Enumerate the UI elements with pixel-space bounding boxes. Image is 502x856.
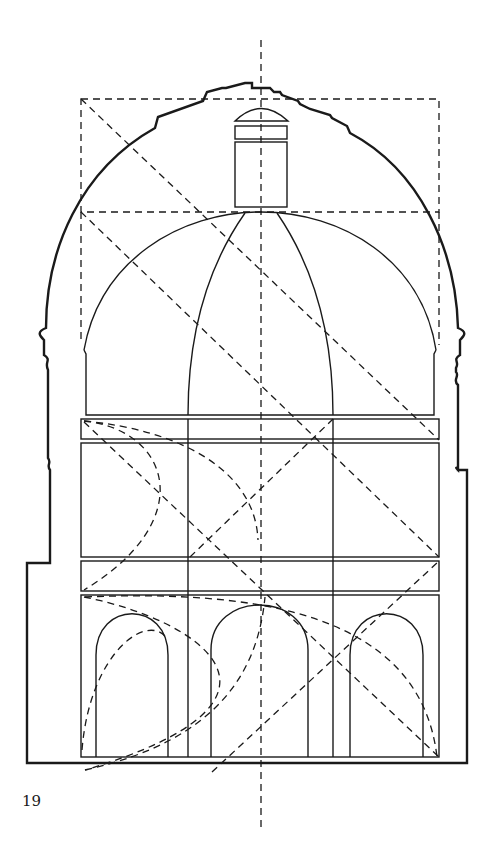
dome-section-drawing [0,0,502,856]
figure-number: 19 [22,792,41,810]
lantern [235,109,288,208]
inner-dome [84,212,436,415]
arches [96,605,423,757]
outer-profile [27,83,467,763]
